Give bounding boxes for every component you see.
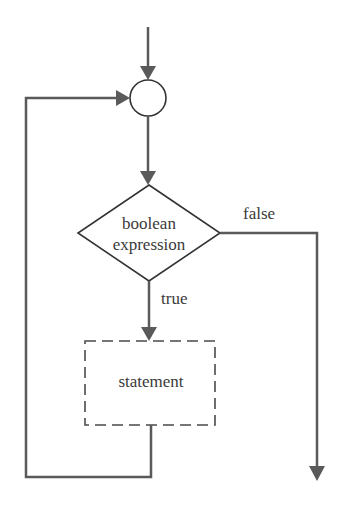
entry-arrow <box>140 27 156 80</box>
false-label: false <box>243 204 275 223</box>
false-arrow <box>220 233 325 481</box>
condition-node <box>78 185 220 281</box>
true-arrow <box>141 281 157 341</box>
junction-node <box>130 80 166 116</box>
flowchart: boolean expression false true statement <box>0 0 339 515</box>
junction-to-condition-arrow <box>140 116 156 185</box>
true-label: true <box>161 289 187 308</box>
condition-label-line1: boolean <box>122 214 176 233</box>
condition-label-line2: expression <box>113 235 186 254</box>
statement-label: statement <box>118 372 183 391</box>
